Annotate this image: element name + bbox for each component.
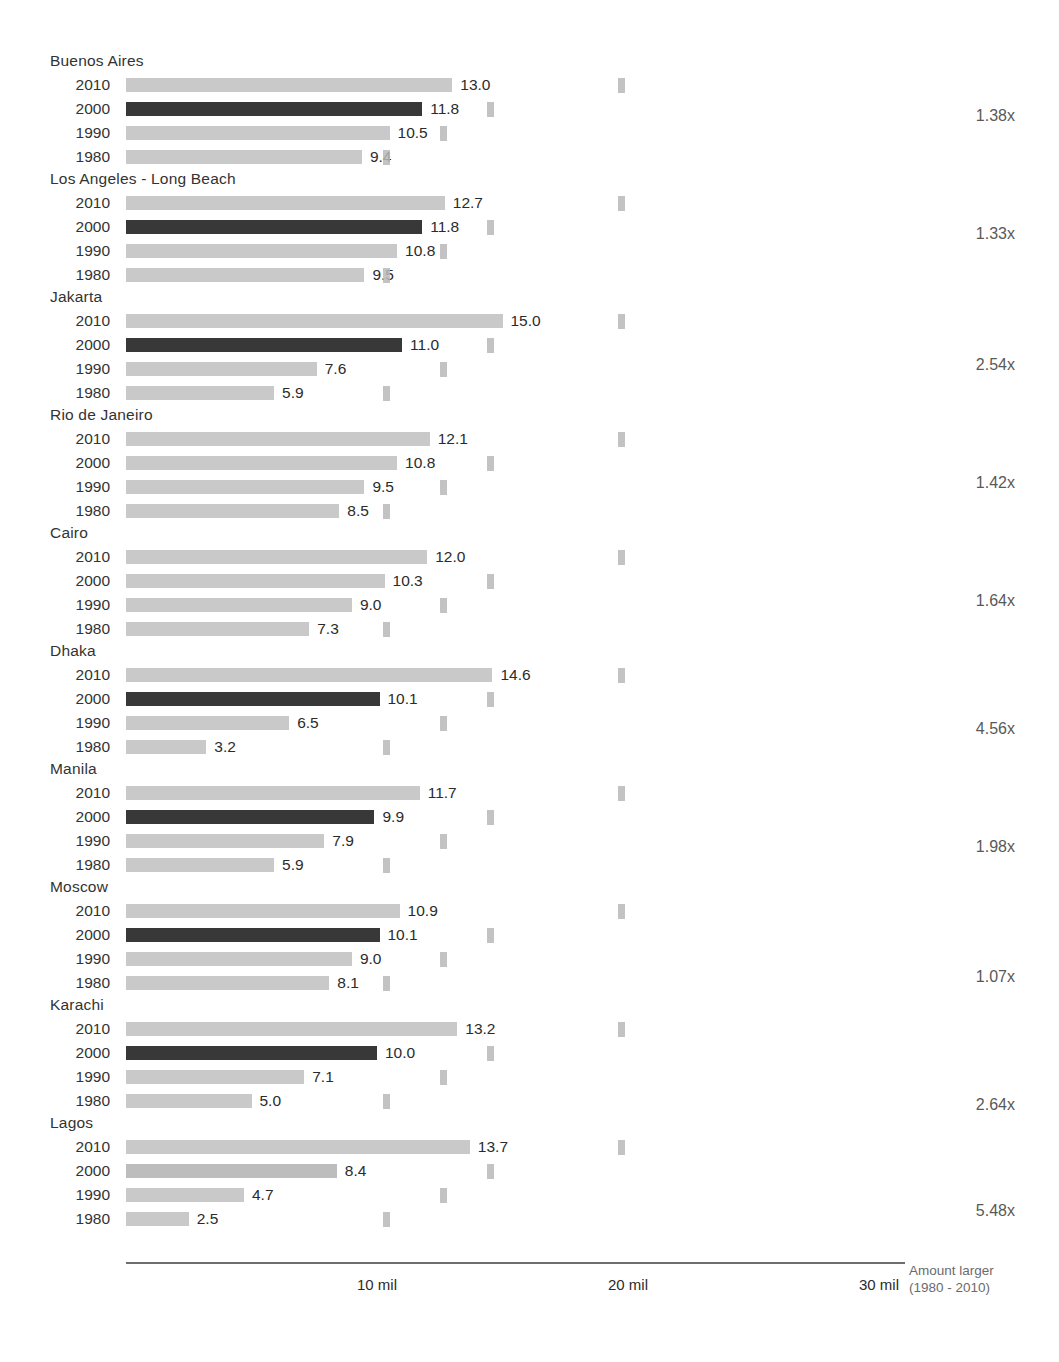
scan-artifact-mark [487,220,494,235]
bar-row[interactable]: 201014.6 [0,664,1059,686]
bar-row[interactable]: 201012.7 [0,192,1059,214]
bar-row[interactable]: 19808.1 [0,972,1059,994]
scan-artifact-mark [618,904,625,919]
bar-value-label: 10.3 [393,570,423,592]
bar-row[interactable]: 201013.2 [0,1018,1059,1040]
bar-row[interactable]: 19909.5 [0,476,1059,498]
bar-row[interactable]: 200010.3 [0,570,1059,592]
bar-row[interactable]: 200010.1 [0,688,1059,710]
bar-row[interactable]: 19907.1 [0,1066,1059,1088]
bar[interactable] [126,126,390,140]
bar[interactable] [126,150,362,164]
bar-row[interactable]: 201013.0 [0,74,1059,96]
scan-artifact-mark [487,928,494,943]
scan-artifact-mark [383,858,390,873]
bar[interactable] [126,716,289,730]
bar[interactable] [126,480,364,494]
bar[interactable] [126,668,492,682]
bar-row[interactable]: 201013.7 [0,1136,1059,1158]
bar-row[interactable]: 19802.5 [0,1208,1059,1230]
bar[interactable] [126,952,352,966]
bar-value-label: 10.8 [405,452,435,474]
scan-artifact-mark [440,1188,447,1203]
bar[interactable] [126,196,445,210]
bar-row[interactable]: 200010.8 [0,452,1059,474]
bar[interactable] [126,456,397,470]
bar-row[interactable]: 200011.8 [0,98,1059,120]
bar-value-label: 9.0 [360,948,382,970]
bar[interactable] [126,1140,470,1154]
bar-row[interactable]: 19907.9 [0,830,1059,852]
bar-row[interactable]: 19807.3 [0,618,1059,640]
bar-row[interactable]: 201010.9 [0,900,1059,922]
bar-row[interactable]: 19809.4 [0,146,1059,168]
bar[interactable] [126,1188,244,1202]
bar[interactable] [126,1164,337,1178]
bar-row[interactable]: 199010.8 [0,240,1059,262]
scan-artifact-mark [383,1212,390,1227]
bar[interactable] [126,574,385,588]
bar-row[interactable]: 19906.5 [0,712,1059,734]
bar[interactable] [126,1070,304,1084]
bar[interactable] [126,786,420,800]
bar-row[interactable]: 19907.6 [0,358,1059,380]
year-label: 1980 [0,618,110,640]
bar[interactable] [126,740,206,754]
growth-ratio-label: 1.64x [976,592,1015,610]
bar-row[interactable]: 201015.0 [0,310,1059,332]
bar-row[interactable]: 19803.2 [0,736,1059,758]
bar[interactable] [126,810,374,824]
bar[interactable] [126,362,317,376]
bar-row[interactable]: 19805.9 [0,382,1059,404]
bar-row[interactable]: 200010.1 [0,924,1059,946]
bar-row[interactable]: 199010.5 [0,122,1059,144]
bar[interactable] [126,1094,252,1108]
bar[interactable] [126,976,329,990]
bar-row[interactable]: 200011.0 [0,334,1059,356]
bar[interactable] [126,504,339,518]
city-group: Buenos Aires201013.0200011.8199010.51980… [0,52,1059,170]
year-label: 2000 [0,452,110,474]
bar-row[interactable]: 201011.7 [0,782,1059,804]
bar-row[interactable]: 19808.5 [0,500,1059,522]
bar-value-label: 10.1 [388,924,418,946]
bar[interactable] [126,220,422,234]
bar-row[interactable]: 19909.0 [0,948,1059,970]
bar[interactable] [126,834,324,848]
bar[interactable] [126,314,503,328]
bar-row[interactable]: 19909.0 [0,594,1059,616]
bar[interactable] [126,1046,377,1060]
bar-row[interactable]: 19805.9 [0,854,1059,876]
bar[interactable] [126,858,274,872]
bar-row[interactable]: 201012.1 [0,428,1059,450]
bar[interactable] [126,102,422,116]
bar[interactable] [126,1022,457,1036]
bar-row[interactable]: 19809.5 [0,264,1059,286]
bar[interactable] [126,338,402,352]
bar[interactable] [126,622,309,636]
bar-row[interactable]: 201012.0 [0,546,1059,568]
bar-row[interactable]: 20009.9 [0,806,1059,828]
bar-row[interactable]: 200010.0 [0,1042,1059,1064]
bar[interactable] [126,692,380,706]
bar[interactable] [126,78,452,92]
bar-row[interactable]: 19904.7 [0,1184,1059,1206]
bar[interactable] [126,904,400,918]
bar-row[interactable]: 19805.0 [0,1090,1059,1112]
scan-artifact-mark [618,78,625,93]
bar[interactable] [126,268,364,282]
axis-note-line-2: (1980 - 2010) [909,1279,1049,1296]
bar-row[interactable]: 200011.8 [0,216,1059,238]
bar-value-label: 13.0 [460,74,490,96]
growth-ratio-label: 2.54x [976,356,1015,374]
bar[interactable] [126,386,274,400]
bar[interactable] [126,928,380,942]
bar-row[interactable]: 20008.4 [0,1160,1059,1182]
year-label: 1980 [0,146,110,168]
bar[interactable] [126,432,430,446]
bar[interactable] [126,598,352,612]
bar[interactable] [126,550,427,564]
scan-artifact-mark [440,480,447,495]
bar[interactable] [126,244,397,258]
bar[interactable] [126,1212,189,1226]
